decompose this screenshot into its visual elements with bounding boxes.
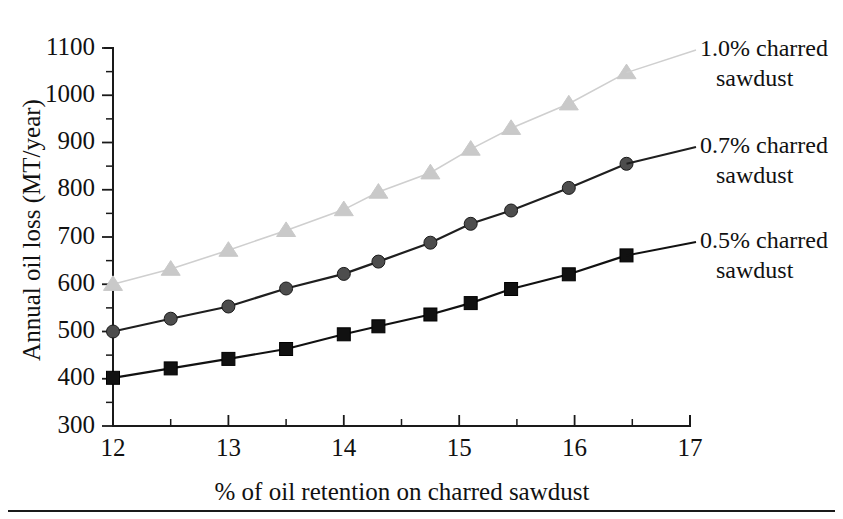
annotation-leader-lines [627, 50, 696, 255]
data-point-square [372, 320, 385, 333]
series-2 [107, 157, 634, 338]
data-point-triangle [219, 242, 238, 257]
data-point-circle [337, 267, 350, 280]
series-annotation-3: 0.5% charred sawdust [700, 227, 828, 283]
leader-line-1 [627, 50, 696, 73]
data-point-circle [505, 204, 518, 217]
data-point-square [464, 297, 477, 310]
y-axis-title: Annual oil loss (MT/year) [18, 99, 46, 361]
data-point-circle [222, 300, 235, 313]
x-tick-label: 16 [562, 434, 587, 461]
plot-axes [102, 48, 690, 426]
data-point-square [562, 268, 575, 281]
x-axis-tick-labels: 121314151617 [101, 434, 703, 461]
x-axis-ticks [113, 415, 690, 426]
data-point-triangle [369, 184, 388, 199]
data-point-circle [464, 217, 477, 230]
series-annotation-1-line2: sawdust [716, 65, 794, 91]
data-point-square [222, 352, 235, 365]
data-point-circle [107, 325, 120, 338]
data-point-triangle [461, 141, 480, 156]
y-tick-label: 300 [58, 411, 96, 438]
x-tick-label: 15 [447, 434, 472, 461]
series-1 [104, 64, 637, 290]
footer-divider [8, 510, 835, 512]
x-tick-label: 17 [678, 434, 703, 461]
data-point-circle [372, 255, 385, 268]
y-tick-label: 600 [58, 269, 96, 296]
data-series-layer [104, 64, 637, 384]
data-point-circle [424, 236, 437, 249]
series-annotation-2: 0.7% charred sawdust [700, 132, 828, 188]
series-annotation-3-line1: 0.5% charred [700, 227, 828, 253]
leader-line-3 [627, 242, 696, 255]
line-chart: 30040050060070080090010001100 1213141516… [0, 0, 843, 519]
data-point-square [505, 283, 518, 296]
y-tick-label: 500 [58, 316, 96, 343]
series-annotation-3-line2: sawdust [716, 257, 794, 283]
leader-line-2 [627, 147, 696, 164]
data-point-square [280, 343, 293, 356]
y-tick-label: 800 [58, 174, 96, 201]
y-tick-label: 900 [58, 127, 96, 154]
series-annotation-2-line2: sawdust [716, 162, 794, 188]
x-axis-title: % of oil retention on charred sawdust [215, 478, 590, 505]
data-point-triangle [277, 222, 296, 237]
data-point-circle [562, 181, 575, 194]
data-point-triangle [617, 64, 636, 79]
data-point-circle [164, 312, 177, 325]
y-tick-label: 700 [58, 222, 96, 249]
series-line [113, 73, 627, 285]
y-tick-label: 400 [58, 363, 96, 390]
data-point-square [164, 362, 177, 375]
data-point-triangle [502, 120, 521, 135]
data-point-triangle [161, 261, 180, 276]
figure-container: 30040050060070080090010001100 1213141516… [0, 0, 843, 519]
data-point-square [337, 328, 350, 341]
x-tick-label: 12 [101, 434, 126, 461]
series-annotation-1-line1: 1.0% charred [700, 35, 828, 61]
series-line [113, 255, 627, 377]
data-point-square [424, 308, 437, 321]
data-point-triangle [334, 201, 353, 216]
data-point-square [107, 371, 120, 384]
series-line [113, 164, 627, 332]
y-axis-ticks [102, 48, 113, 426]
y-tick-label: 1100 [46, 33, 95, 60]
series-annotation-1: 1.0% charred sawdust [700, 35, 828, 91]
series-annotation-2-line1: 0.7% charred [700, 132, 828, 158]
x-tick-label: 13 [216, 434, 241, 461]
data-point-circle [620, 157, 633, 170]
data-point-circle [280, 282, 293, 295]
y-axis-tick-labels: 30040050060070080090010001100 [45, 33, 95, 438]
data-point-triangle [559, 95, 578, 110]
data-point-triangle [421, 164, 440, 179]
y-tick-label: 1000 [45, 80, 95, 107]
x-tick-label: 14 [331, 434, 357, 461]
